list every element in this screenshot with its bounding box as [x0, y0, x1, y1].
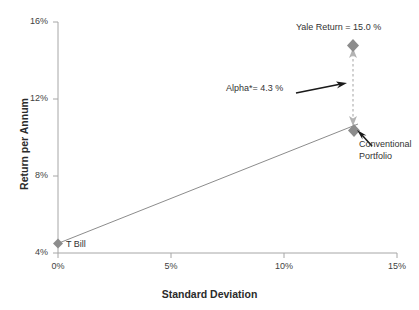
x-tick-label-5: 5%: [151, 261, 191, 271]
marker-yale-return: [347, 39, 359, 52]
x-axis-ticks: [58, 253, 397, 258]
annotation-tbill: T Bill: [66, 239, 86, 251]
y-axis-title: Return per Annum: [18, 64, 30, 224]
alpha-callout-arrow-icon: [296, 82, 347, 94]
annotation-alpha: Alpha*= 4.3 %: [226, 83, 283, 95]
annotation-conventional-line2: Portfolio: [359, 151, 392, 161]
chart-container: 16% 12% 8% 4% 0% 5% 10% 15% Standard Dev…: [0, 0, 419, 310]
x-tick-label-0: 0%: [38, 261, 78, 271]
x-tick-label-15: 15%: [377, 261, 417, 271]
annotation-yale-return: Yale Return = 15.0 %: [296, 22, 381, 34]
annotation-conventional-portfolio: Conventional Portfolio: [359, 139, 419, 162]
marker-conventional-portfolio: [348, 124, 360, 137]
y-tick-label-16: 16%: [10, 16, 48, 26]
x-axis-title: Standard Deviation: [0, 288, 419, 300]
y-axis-ticks: [53, 22, 58, 253]
capital-market-line: [58, 124, 358, 243]
y-tick-label-4: 4%: [10, 247, 48, 257]
x-tick-label-10: 10%: [264, 261, 304, 271]
marker-tbill: [53, 238, 63, 248]
annotation-conventional-line1: Conventional: [359, 139, 412, 149]
